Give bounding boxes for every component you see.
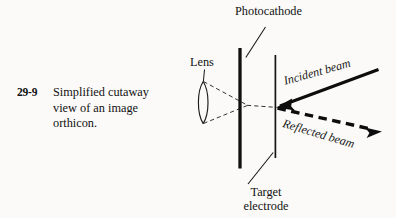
figure-container: 29-9 Simplified cutaway view of an image… (0, 0, 396, 218)
figure-number: 29-9 (17, 86, 37, 98)
lens-right-arc (203, 82, 208, 124)
label-target-electrode-line1: Target (233, 186, 299, 200)
photocathode-leader-line (246, 27, 266, 58)
label-target-electrode-line2: electrode (233, 200, 299, 214)
lens-leader-line (203, 70, 204, 82)
label-photocathode: Photocathode (235, 5, 302, 19)
lens-glyph (198, 82, 208, 124)
reflected-beam-arrowhead (365, 127, 382, 138)
focus-to-target-ray (247, 105, 277, 107)
lens-left-arc (198, 82, 203, 124)
target-electrode-leader-line (248, 153, 273, 185)
label-lens: Lens (190, 56, 214, 70)
label-target-electrode: Target electrode (233, 186, 299, 214)
figure-caption-text: Simplified cutaway view of an image orth… (53, 85, 171, 132)
